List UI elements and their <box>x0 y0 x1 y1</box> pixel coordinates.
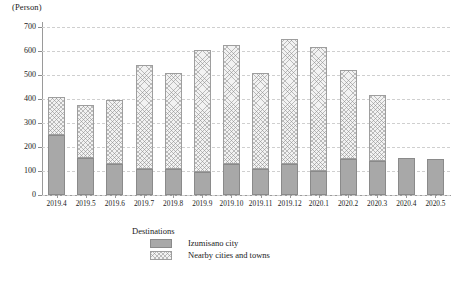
legend-item-nearby-cities-and-towns: Nearby cities and towns <box>150 251 270 260</box>
y-tick-mark <box>38 99 42 100</box>
legend-title: Destinations <box>132 227 270 236</box>
x-tick-label-2019.6: 2019.6 <box>105 200 125 207</box>
bar-segment-izumisano-city[interactable] <box>427 159 444 195</box>
x-tick-mark <box>261 195 262 198</box>
y-gridline <box>42 147 450 148</box>
y-tick-label: 400 <box>24 95 36 103</box>
stacked-bar-chart: (Person) 0100200300400500600700 Destinat… <box>0 0 457 289</box>
x-tick-mark <box>173 195 174 198</box>
bar-segment-nearby-cities-and-towns[interactable] <box>165 73 182 169</box>
bar-segment-nearby-cities-and-towns[interactable] <box>281 39 298 164</box>
bar-segment-izumisano-city[interactable] <box>398 158 415 195</box>
y-tick-mark <box>38 195 42 196</box>
y-tick-label: 100 <box>24 167 36 175</box>
x-tick-mark <box>319 195 320 198</box>
x-tick-label-2019.4: 2019.4 <box>47 200 67 207</box>
legend-label: Izumisano city <box>188 239 238 248</box>
bar-segment-nearby-cities-and-towns[interactable] <box>48 97 65 135</box>
bar-segment-izumisano-city[interactable] <box>48 135 65 195</box>
x-tick-mark <box>435 195 436 198</box>
bar-segment-nearby-cities-and-towns[interactable] <box>340 70 357 159</box>
y-gridline <box>42 171 450 172</box>
y-gridline <box>42 27 450 28</box>
bar-segment-izumisano-city[interactable] <box>281 164 298 195</box>
x-tick-label-2019.12: 2019.12 <box>278 200 302 207</box>
x-tick-label-2020.4: 2020.4 <box>396 200 416 207</box>
x-tick-mark <box>57 195 58 198</box>
x-tick-label-2019.5: 2019.5 <box>76 200 96 207</box>
x-tick-label-2020.3: 2020.3 <box>367 200 387 207</box>
bar-segment-izumisano-city[interactable] <box>340 159 357 195</box>
y-tick-mark <box>38 51 42 52</box>
x-tick-mark <box>348 195 349 198</box>
bar-segment-izumisano-city[interactable] <box>106 164 123 195</box>
legend-label: Nearby cities and towns <box>188 251 270 260</box>
x-tick-label-2019.10: 2019.10 <box>220 200 244 207</box>
bar-segment-izumisano-city[interactable] <box>252 169 269 195</box>
bar-segment-nearby-cities-and-towns[interactable] <box>136 65 153 168</box>
x-tick-mark <box>231 195 232 198</box>
plot-area: 0100200300400500600700 <box>42 27 450 195</box>
x-tick-label-2019.9: 2019.9 <box>192 200 212 207</box>
legend-swatch-hatch-icon <box>150 251 172 260</box>
x-tick-mark <box>377 195 378 198</box>
x-tick-label-2019.8: 2019.8 <box>163 200 183 207</box>
y-tick-label: 0 <box>32 191 36 199</box>
y-axis-unit-label: (Person) <box>12 2 42 12</box>
legend-swatch-solid-icon <box>150 239 172 248</box>
bar-segment-izumisano-city[interactable] <box>165 169 182 195</box>
bar-segment-nearby-cities-and-towns[interactable] <box>223 45 240 164</box>
x-tick-label-2020.5: 2020.5 <box>425 200 445 207</box>
x-tick-label-2019.11: 2019.11 <box>249 200 272 207</box>
y-tick-label: 600 <box>24 47 36 55</box>
bar-segment-izumisano-city[interactable] <box>136 169 153 195</box>
y-tick-mark <box>38 123 42 124</box>
legend-item-izumisano-city: Izumisano city <box>150 239 270 248</box>
x-tick-label-2019.7: 2019.7 <box>134 200 154 207</box>
x-tick-mark <box>406 195 407 198</box>
x-tick-label-2020.1: 2020.1 <box>309 200 329 207</box>
bar-segment-izumisano-city[interactable] <box>194 172 211 195</box>
x-tick-mark <box>290 195 291 198</box>
bar-segment-nearby-cities-and-towns[interactable] <box>252 73 269 169</box>
y-gridline <box>42 99 450 100</box>
y-gridline <box>42 123 450 124</box>
y-tick-mark <box>38 75 42 76</box>
bar-segment-izumisano-city[interactable] <box>223 164 240 195</box>
bar-segment-izumisano-city[interactable] <box>310 171 327 195</box>
y-gridline <box>42 195 450 196</box>
x-tick-mark <box>144 195 145 198</box>
x-tick-label-2020.2: 2020.2 <box>338 200 358 207</box>
bar-segment-nearby-cities-and-towns[interactable] <box>194 50 211 172</box>
y-tick-mark <box>38 27 42 28</box>
x-tick-mark <box>202 195 203 198</box>
y-tick-mark <box>38 147 42 148</box>
y-tick-label: 200 <box>24 143 36 151</box>
bar-segment-izumisano-city[interactable] <box>77 158 94 195</box>
x-tick-mark <box>115 195 116 198</box>
y-tick-label: 500 <box>24 71 36 79</box>
bar-segment-nearby-cities-and-towns[interactable] <box>106 100 123 164</box>
y-tick-mark <box>38 171 42 172</box>
bar-segment-izumisano-city[interactable] <box>369 161 386 195</box>
x-tick-mark <box>86 195 87 198</box>
bar-segment-nearby-cities-and-towns[interactable] <box>310 47 327 171</box>
y-gridline <box>42 51 450 52</box>
bar-segment-nearby-cities-and-towns[interactable] <box>369 95 386 161</box>
bar-segment-nearby-cities-and-towns[interactable] <box>77 105 94 158</box>
y-tick-label: 700 <box>24 23 36 31</box>
y-gridline <box>42 75 450 76</box>
y-tick-label: 300 <box>24 119 36 127</box>
chart-legend: Destinations Izumisano city Nearby citie… <box>132 227 270 260</box>
